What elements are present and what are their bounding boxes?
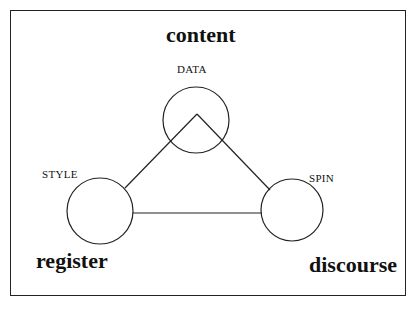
node-data-circle (163, 87, 229, 153)
label-discourse: discourse (309, 252, 397, 278)
node-style-label: STYLE (42, 168, 78, 180)
node-spin-label: SPIN (309, 172, 334, 184)
node-style-circle (67, 178, 133, 244)
node-data-label: DATA (177, 63, 207, 75)
edge-data-spin (197, 114, 270, 190)
label-register: register (36, 248, 108, 274)
label-content: content (166, 22, 236, 48)
node-spin-circle (261, 179, 323, 241)
